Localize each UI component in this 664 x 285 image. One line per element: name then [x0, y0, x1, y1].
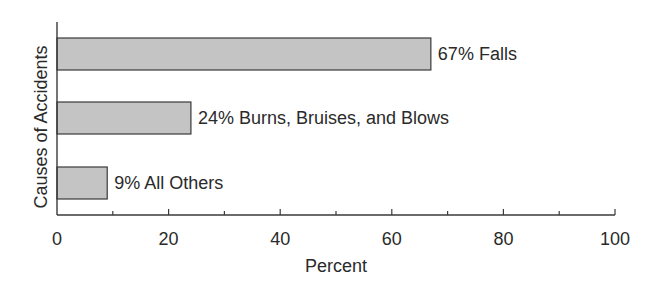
bar-label: 24% Burns, Bruises, and Blows [198, 108, 449, 128]
x-tick-label: 80 [493, 229, 513, 249]
y-axis-label: Causes of Accidents [31, 45, 51, 208]
bar-chart: 67% Falls24% Burns, Bruises, and Blows9%… [0, 0, 664, 285]
x-tick-label: 100 [600, 229, 630, 249]
x-tick-label: 60 [382, 229, 402, 249]
x-tick-label: 40 [270, 229, 290, 249]
bar-falls [57, 38, 431, 70]
x-tick-label: 20 [159, 229, 179, 249]
x-axis-label: Percent [305, 256, 367, 276]
bar-label: 67% Falls [438, 44, 517, 64]
x-tick-label: 0 [52, 229, 62, 249]
bar-all-others [57, 167, 107, 199]
bar-label: 9% All Others [114, 173, 223, 193]
bar-burns-bruises-and-blows [57, 102, 191, 134]
bars-group: 67% Falls24% Burns, Bruises, and Blows9%… [57, 38, 517, 199]
